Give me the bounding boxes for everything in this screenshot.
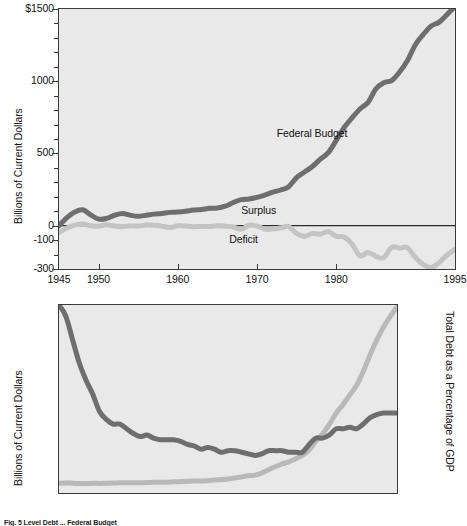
y-minor-tick-mark <box>54 110 58 111</box>
y-tick-label: 500 <box>6 147 54 158</box>
bottom-chart-y-axis-title: Billions of Current Dollars <box>12 370 24 486</box>
bottom-chart-plot-area <box>58 304 398 494</box>
y-minor-tick-mark <box>54 23 58 24</box>
y-tick-mark <box>52 240 58 241</box>
y-minor-tick-mark <box>54 168 58 169</box>
x-tick-mark <box>178 264 179 270</box>
figure-page: Billions of Current Dollars $15001000500… <box>0 0 467 526</box>
top-chart-plot-area <box>58 8 456 270</box>
x-tick-mark <box>257 264 258 270</box>
x-tick-mark <box>99 264 100 270</box>
y-minor-tick-mark <box>54 67 58 68</box>
y-tick-label: 1000 <box>6 75 54 86</box>
x-tick-label: 1960 <box>154 274 202 285</box>
x-tick-label: 1970 <box>233 274 281 285</box>
chart-federal-budget: Billions of Current Dollars $15001000500… <box>0 0 467 292</box>
y-tick-mark <box>52 269 58 270</box>
y-tick-mark <box>52 226 58 227</box>
top-chart-y-axis-title: Billions of Current Dollars <box>12 108 24 224</box>
y-tick-mark <box>52 153 58 154</box>
surplus-label: Surplus <box>241 204 276 216</box>
chart-total-federal-debt: Billions of Current Dollars Total Debt a… <box>0 296 467 526</box>
y-minor-tick-mark <box>54 211 58 212</box>
y-minor-tick-mark <box>54 38 58 39</box>
bottom-chart-right-y-axis-title: Total Debt as a Percentage of GDP <box>444 311 456 472</box>
y-minor-tick-mark <box>54 139 58 140</box>
deficit-label: Deficit <box>229 233 257 245</box>
y-minor-tick-mark <box>54 52 58 53</box>
x-tick-label: 1950 <box>75 274 123 285</box>
y-minor-tick-mark <box>54 125 58 126</box>
y-minor-tick-mark <box>54 182 58 183</box>
y-tick-label: -100 <box>6 234 54 245</box>
federal-budget-label: Federal Budget <box>277 127 347 139</box>
y-tick-label: -300 <box>6 263 54 274</box>
x-tick-label: 1995 <box>431 274 467 285</box>
x-tick-label: 1980 <box>312 274 360 285</box>
y-tick-mark <box>52 9 58 10</box>
y-tick-label: $1500 <box>6 3 54 14</box>
y-tick-label: 0 <box>6 220 54 231</box>
y-minor-tick-mark <box>54 96 58 97</box>
y-minor-tick-mark <box>54 255 58 256</box>
x-tick-mark <box>336 264 337 270</box>
y-minor-tick-mark <box>54 197 58 198</box>
figure-caption: Fig. 5 Level Debt ... Federal Budget <box>4 519 334 526</box>
y-tick-mark <box>52 81 58 82</box>
